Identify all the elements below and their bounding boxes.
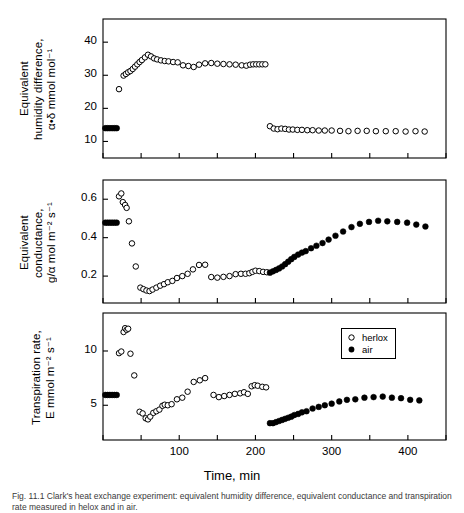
y-tick-label: 30 bbox=[57, 67, 97, 79]
data-point bbox=[186, 63, 192, 69]
axes-layer bbox=[103, 19, 446, 440]
y-tick-label: 10 bbox=[57, 133, 97, 145]
data-point bbox=[125, 326, 131, 332]
y-axis-label-line: Transpiration rate, bbox=[30, 316, 44, 440]
data-points-layer bbox=[102, 52, 428, 426]
data-point bbox=[322, 128, 328, 134]
data-point bbox=[128, 351, 134, 357]
data-point bbox=[299, 127, 305, 133]
data-point bbox=[245, 391, 251, 397]
data-point bbox=[371, 394, 377, 400]
legend-label-herlox: herlox bbox=[362, 332, 388, 344]
data-point bbox=[333, 233, 339, 239]
series-air bbox=[102, 220, 119, 226]
data-point bbox=[380, 394, 386, 400]
data-point bbox=[233, 271, 239, 277]
data-point bbox=[344, 397, 350, 403]
data-point bbox=[326, 237, 332, 243]
data-point bbox=[221, 61, 227, 67]
data-point bbox=[180, 273, 186, 279]
y-axis-label-line: conductance, bbox=[32, 178, 46, 308]
data-point bbox=[375, 218, 381, 224]
data-point bbox=[221, 393, 227, 399]
legend-label-air: air bbox=[362, 344, 373, 356]
x-tick-label: 200 bbox=[235, 445, 275, 457]
data-point bbox=[196, 262, 202, 268]
data-point bbox=[362, 395, 368, 401]
data-point bbox=[175, 60, 181, 66]
data-point bbox=[114, 220, 120, 226]
y-tick-label: 5 bbox=[57, 397, 97, 409]
y-tick-label: 0.6 bbox=[57, 191, 97, 203]
data-point bbox=[196, 62, 202, 68]
series-air-phase bbox=[267, 218, 428, 276]
data-point bbox=[320, 240, 326, 246]
data-point bbox=[202, 61, 208, 67]
data-point bbox=[126, 219, 132, 225]
data-point bbox=[169, 401, 175, 407]
data-point bbox=[346, 128, 352, 134]
data-point bbox=[221, 274, 227, 280]
y-axis-label-line: humidity difference, bbox=[32, 14, 46, 164]
data-point bbox=[423, 224, 429, 230]
x-tick-label: 100 bbox=[159, 445, 199, 457]
data-point bbox=[114, 125, 120, 131]
data-point bbox=[337, 128, 343, 134]
x-tick-label: 400 bbox=[388, 445, 428, 457]
y-axis-label-bottom-panel: Transpiration rate, E mmol m⁻² s⁻¹ bbox=[30, 316, 72, 440]
figure-caption: Fig. 11.1 Clark's heat exchange experime… bbox=[12, 491, 452, 513]
data-point bbox=[190, 267, 196, 273]
data-point bbox=[191, 379, 197, 385]
data-point bbox=[329, 128, 335, 134]
data-point bbox=[185, 389, 191, 395]
filled-circle-icon bbox=[347, 345, 356, 354]
y-axis-label-line: Equivalent bbox=[18, 178, 32, 308]
y-axis-label-line: Equivalent bbox=[18, 14, 32, 164]
series-air-phase bbox=[267, 394, 422, 426]
data-point bbox=[352, 396, 358, 402]
data-point bbox=[208, 274, 214, 280]
data-point bbox=[314, 243, 320, 249]
data-point bbox=[305, 127, 311, 133]
data-point bbox=[124, 205, 130, 211]
data-point bbox=[202, 375, 208, 381]
data-point bbox=[215, 61, 221, 67]
data-point bbox=[413, 128, 419, 134]
data-point bbox=[180, 63, 186, 69]
data-point bbox=[316, 404, 322, 410]
data-point bbox=[413, 222, 419, 228]
data-point bbox=[394, 219, 400, 225]
series-herlox bbox=[116, 52, 268, 92]
data-point bbox=[355, 128, 361, 134]
data-point bbox=[216, 394, 222, 400]
data-point bbox=[119, 191, 125, 197]
data-point bbox=[383, 128, 389, 134]
data-point bbox=[310, 127, 316, 133]
data-point bbox=[407, 397, 413, 403]
data-point bbox=[393, 128, 399, 134]
data-point bbox=[174, 275, 180, 281]
y-tick-label: 0.4 bbox=[57, 230, 97, 242]
y-tick-label: 0.2 bbox=[57, 268, 97, 280]
data-point bbox=[389, 395, 395, 401]
data-point bbox=[114, 392, 120, 398]
data-point bbox=[398, 395, 404, 401]
data-point bbox=[233, 62, 239, 68]
data-point bbox=[303, 248, 309, 254]
data-point bbox=[191, 64, 197, 70]
data-point bbox=[133, 264, 139, 270]
y-axis-label-line: E mmol m⁻² s⁻¹ bbox=[44, 316, 58, 440]
data-point bbox=[202, 262, 208, 268]
data-point bbox=[263, 62, 269, 68]
panel-frame bbox=[103, 180, 446, 303]
data-point bbox=[132, 373, 138, 379]
data-point bbox=[340, 229, 346, 235]
data-point bbox=[304, 408, 310, 414]
data-point bbox=[322, 402, 328, 408]
data-point bbox=[232, 391, 238, 397]
data-point bbox=[174, 397, 180, 403]
data-point bbox=[366, 219, 372, 225]
data-point bbox=[227, 273, 233, 279]
data-point bbox=[349, 224, 355, 230]
series-air bbox=[102, 392, 119, 398]
